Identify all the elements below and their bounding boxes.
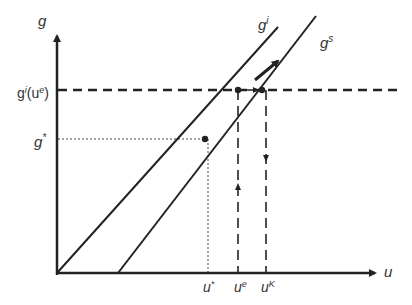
up-arrow-icon: [235, 183, 241, 190]
growth-utilization-diagram: g u gi gs gi(ue) g* u* ue uK: [0, 0, 412, 305]
ue-tick-label: ue: [234, 279, 247, 295]
gs-curve-label: gs: [320, 33, 333, 51]
uk-tick-label: uK: [261, 279, 276, 295]
gi-curve-label: gi: [258, 15, 269, 33]
equilibrium-point: [202, 136, 208, 142]
down-arrow-icon: [263, 155, 269, 162]
point-gs-uk: [259, 87, 265, 93]
savings-line: [118, 16, 316, 273]
u-star-tick-label: u*: [203, 279, 215, 295]
x-axis-label: u: [384, 263, 393, 280]
point-gi-ue: [235, 87, 241, 93]
y-axis-label: g: [38, 12, 47, 29]
investment-line: [57, 27, 278, 273]
g-star-tick-label: g*: [34, 132, 47, 150]
gi-ue-tick-label: gi(ue): [17, 85, 49, 101]
